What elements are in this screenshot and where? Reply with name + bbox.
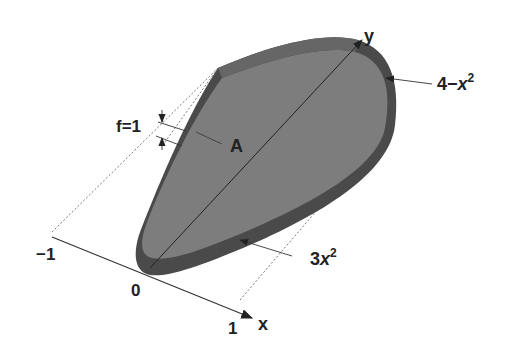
tick-label-neg1: −1 [36,245,55,264]
x-axis-label: x [258,314,268,334]
tick-label-0: 0 [131,281,140,300]
thickness-label: f=1 [116,117,141,136]
y-axis-label: y [364,26,374,46]
area-label: A [230,136,243,156]
tick-label-1: 1 [228,319,237,338]
plate-diagram: y x 4−x2 3x2 f=1 A −1 0 1 [0,0,511,362]
lower-curve-label: 3x2 [310,246,337,269]
upper-curve-label: 4−x2 [437,71,475,94]
